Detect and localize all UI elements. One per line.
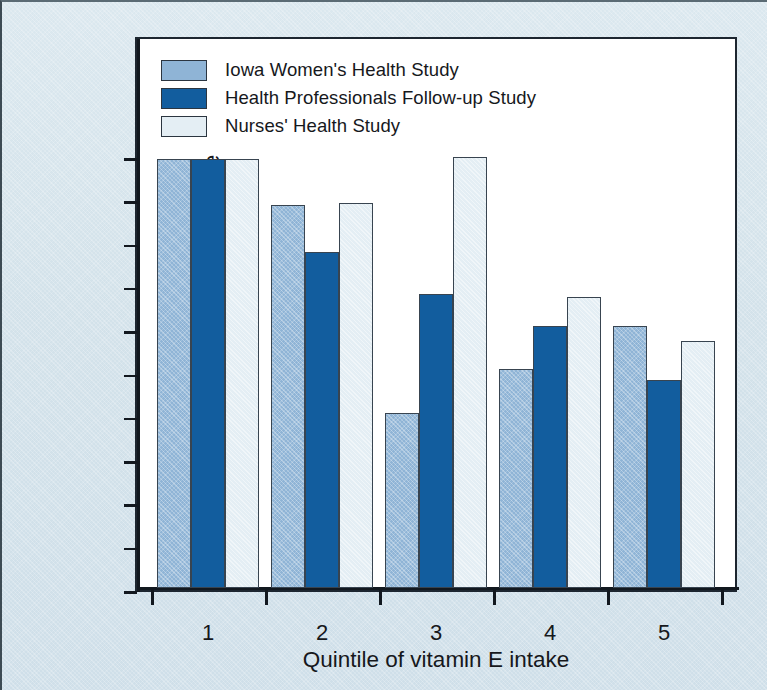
- x-axis-tick: [151, 590, 154, 605]
- x-axis-tick-label: 1: [178, 620, 238, 646]
- y-axis-tick: [124, 418, 137, 421]
- y-axis-tick: [124, 375, 137, 378]
- x-axis-tick-label: 5: [634, 620, 694, 646]
- x-axis-tick-label: 4: [520, 620, 580, 646]
- bar: [647, 380, 681, 588]
- bar: [271, 205, 305, 588]
- y-axis-tick: [124, 591, 137, 594]
- bar: [499, 369, 533, 588]
- chart-figure-panel: Iowa Women's Health Study Health Profess…: [135, 37, 737, 592]
- y-axis-tick: [124, 201, 137, 204]
- y-axis-tick: [124, 288, 137, 291]
- bar: [613, 326, 647, 588]
- x-axis-tick: [379, 590, 382, 605]
- x-axis-tick: [265, 590, 268, 605]
- bar: [533, 326, 567, 588]
- bar: [191, 159, 225, 588]
- y-axis-line: [137, 39, 140, 592]
- y-axis-tick: [124, 548, 137, 551]
- x-axis-tick-label: 3: [406, 620, 466, 646]
- bar: [453, 157, 487, 588]
- x-axis-tick: [607, 590, 610, 605]
- bar: [681, 341, 715, 588]
- bar: [419, 294, 453, 588]
- plot-area: 00.10.20.30.40.50.60.70.80.91 12345: [137, 39, 735, 590]
- page-background: Iowa Women's Health Study Health Profess…: [0, 0, 767, 690]
- x-axis-tick: [721, 590, 724, 605]
- bar: [157, 159, 191, 588]
- y-axis-tick: [124, 158, 137, 161]
- bar: [225, 159, 259, 588]
- y-axis-tick: [124, 461, 137, 464]
- bar: [385, 413, 419, 588]
- y-axis-tick: [124, 245, 137, 248]
- y-axis-tick: [124, 504, 137, 507]
- x-axis-tick: [493, 590, 496, 605]
- bar: [339, 203, 373, 588]
- y-axis-tick: [124, 331, 137, 334]
- x-axis-title: Quintile of vitamin E intake: [135, 647, 737, 673]
- x-axis-tick-label: 2: [292, 620, 352, 646]
- bar: [567, 297, 601, 588]
- bar: [305, 252, 339, 588]
